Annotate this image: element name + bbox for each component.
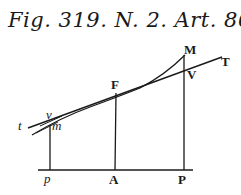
label-p: p: [43, 171, 51, 186]
label-m: m: [52, 118, 61, 133]
label-A: A: [109, 172, 119, 187]
label-T: T: [221, 54, 230, 69]
label-F: F: [111, 77, 119, 92]
label-M: M: [184, 42, 196, 57]
label-P: P: [178, 172, 186, 187]
label-t: t: [18, 118, 22, 133]
ordinate-AF: [115, 93, 116, 170]
geometry-figure: t v m F M V T p A P: [0, 0, 241, 195]
label-V: V: [187, 67, 197, 82]
